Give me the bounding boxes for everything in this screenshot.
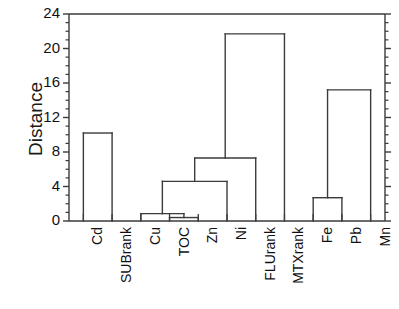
dendrogram-merge-m7 xyxy=(328,90,371,221)
dendrogram-merge-m8 xyxy=(225,34,284,221)
dendrogram-merge-m3 xyxy=(162,181,227,221)
dendrogram-figure: Distance 04812162024 CdSUBrankCuTOCZnNiF… xyxy=(0,0,399,309)
dendrogram-merge-m6 xyxy=(313,198,342,221)
dendrogram-tree xyxy=(83,34,370,221)
dendrogram-plot-area xyxy=(0,0,399,309)
dendrogram-merge-m4 xyxy=(195,158,256,221)
dendrogram-merge-m5 xyxy=(83,133,112,221)
